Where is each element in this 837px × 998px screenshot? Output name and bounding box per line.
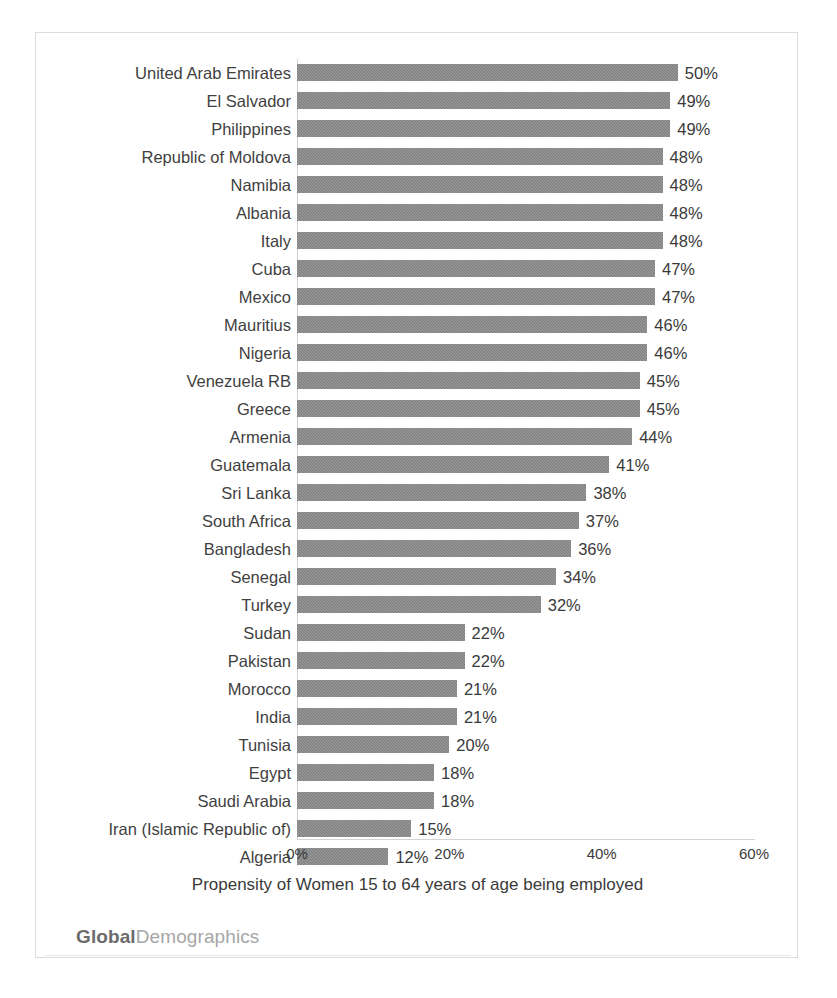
bar-value-label: 36% bbox=[578, 535, 611, 563]
bar-value-label: 49% bbox=[677, 115, 710, 143]
bar bbox=[297, 204, 663, 221]
category-label: Turkey bbox=[241, 591, 291, 619]
bar-value-label: 32% bbox=[548, 591, 581, 619]
bar bbox=[297, 400, 640, 417]
bar-value-label: 34% bbox=[563, 563, 596, 591]
bar-value-label: 20% bbox=[456, 731, 489, 759]
bar bbox=[297, 484, 586, 501]
bar bbox=[297, 260, 655, 277]
bar-value-label: 49% bbox=[677, 87, 710, 115]
category-label: Pakistan bbox=[228, 647, 291, 675]
bar-row: Republic of Moldova48% bbox=[36, 143, 799, 171]
category-label: Namibia bbox=[230, 171, 291, 199]
x-tick-label: 40% bbox=[587, 845, 617, 862]
bar-row: Morocco21% bbox=[36, 675, 799, 703]
category-label: Bangladesh bbox=[204, 535, 291, 563]
bar bbox=[297, 372, 640, 389]
category-label: Mauritius bbox=[224, 311, 291, 339]
bar bbox=[297, 344, 647, 361]
category-label: Iran (Islamic Republic of) bbox=[109, 815, 291, 843]
bar bbox=[297, 456, 609, 473]
category-label: Republic of Moldova bbox=[142, 143, 292, 171]
category-label: India bbox=[255, 703, 291, 731]
bar bbox=[297, 232, 663, 249]
category-label: Algeria bbox=[240, 843, 291, 871]
bar bbox=[297, 652, 465, 669]
bar-value-label: 44% bbox=[639, 423, 672, 451]
bar-value-label: 12% bbox=[395, 843, 428, 871]
category-label: Sri Lanka bbox=[221, 479, 291, 507]
bar-value-label: 41% bbox=[616, 451, 649, 479]
bar bbox=[297, 176, 663, 193]
bar bbox=[297, 428, 632, 445]
bar-value-label: 50% bbox=[685, 59, 718, 87]
bar-row: Cuba47% bbox=[36, 255, 799, 283]
category-label: El Salvador bbox=[207, 87, 291, 115]
category-label: Sudan bbox=[243, 619, 291, 647]
category-label: South Africa bbox=[202, 507, 291, 535]
bar-row: Namibia48% bbox=[36, 171, 799, 199]
footer-divider bbox=[44, 955, 791, 956]
bar bbox=[297, 736, 449, 753]
bar-row: Albania48% bbox=[36, 199, 799, 227]
bar-row: Turkey32% bbox=[36, 591, 799, 619]
bar-row: Mauritius46% bbox=[36, 311, 799, 339]
category-label: Guatemala bbox=[210, 451, 291, 479]
bar-value-label: 21% bbox=[464, 703, 497, 731]
bar bbox=[297, 316, 647, 333]
bar-row: Iran (Islamic Republic of)15% bbox=[36, 815, 799, 843]
bar-row: Nigeria46% bbox=[36, 339, 799, 367]
bar-row: United Arab Emirates50% bbox=[36, 59, 799, 87]
bar-value-label: 22% bbox=[472, 647, 505, 675]
category-label: Philippines bbox=[211, 115, 291, 143]
bar-value-label: 47% bbox=[662, 255, 695, 283]
chart-figure: United Arab Emirates50%El Salvador49%Phi… bbox=[35, 32, 798, 958]
bar bbox=[297, 708, 457, 725]
bar-value-label: 22% bbox=[472, 619, 505, 647]
category-label: Senegal bbox=[230, 563, 291, 591]
bar-row: Senegal34% bbox=[36, 563, 799, 591]
global-demographics-logo: GlobalDemographics bbox=[76, 926, 259, 948]
bar-value-label: 45% bbox=[647, 395, 680, 423]
bar bbox=[297, 64, 678, 81]
bar-row: Greece45% bbox=[36, 395, 799, 423]
bar bbox=[297, 568, 556, 585]
bar bbox=[297, 680, 457, 697]
bar-value-label: 18% bbox=[441, 759, 474, 787]
x-tick-label: 0% bbox=[286, 845, 308, 862]
bar-value-label: 46% bbox=[654, 311, 687, 339]
bar-value-label: 48% bbox=[670, 227, 703, 255]
bar bbox=[297, 512, 579, 529]
category-label: Armenia bbox=[230, 423, 291, 451]
bar-row: Algeria12% bbox=[36, 843, 799, 871]
bar-row: Pakistan22% bbox=[36, 647, 799, 675]
bar-row: India21% bbox=[36, 703, 799, 731]
bar-row: Venezuela RB45% bbox=[36, 367, 799, 395]
bar bbox=[297, 764, 434, 781]
bar-row: Sri Lanka38% bbox=[36, 479, 799, 507]
bar-row: Philippines49% bbox=[36, 115, 799, 143]
bar bbox=[297, 596, 541, 613]
category-label: Albania bbox=[236, 199, 291, 227]
bar-value-label: 48% bbox=[670, 199, 703, 227]
bar-value-label: 18% bbox=[441, 787, 474, 815]
bar-row: Saudi Arabia18% bbox=[36, 787, 799, 815]
bar-row: Egypt18% bbox=[36, 759, 799, 787]
bar-row: Mexico47% bbox=[36, 283, 799, 311]
category-label: Morocco bbox=[228, 675, 291, 703]
bar-row: South Africa37% bbox=[36, 507, 799, 535]
bar bbox=[297, 288, 655, 305]
plot-area: United Arab Emirates50%El Salvador49%Phi… bbox=[36, 33, 799, 959]
bar-value-label: 21% bbox=[464, 675, 497, 703]
bar bbox=[297, 540, 571, 557]
bar bbox=[297, 792, 434, 809]
category-label: Nigeria bbox=[239, 339, 291, 367]
x-axis-title: Propensity of Women 15 to 64 years of ag… bbox=[36, 875, 799, 895]
category-label: United Arab Emirates bbox=[135, 59, 291, 87]
category-label: Egypt bbox=[249, 759, 291, 787]
category-label: Italy bbox=[261, 227, 291, 255]
bar-value-label: 46% bbox=[654, 339, 687, 367]
bar-row: El Salvador49% bbox=[36, 87, 799, 115]
category-label: Mexico bbox=[239, 283, 291, 311]
bar bbox=[297, 120, 670, 137]
